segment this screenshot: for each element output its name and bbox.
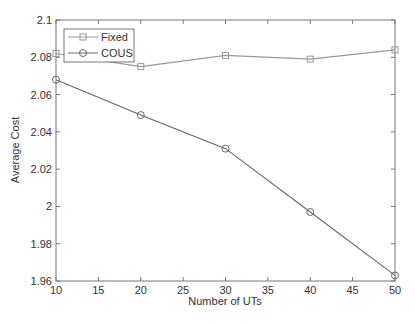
legend-label-cous: COUS	[101, 47, 133, 59]
y-tick-label: 2.04	[31, 126, 52, 138]
square-marker-icon	[223, 52, 229, 58]
series-line-cous	[56, 80, 395, 276]
y-tick-label: 1.96	[31, 275, 52, 287]
square-marker-icon	[138, 64, 144, 70]
x-tick-label: 50	[389, 284, 401, 296]
x-tick-label: 45	[347, 284, 359, 296]
x-tick-label: 40	[304, 284, 316, 296]
square-marker-icon	[307, 56, 313, 62]
x-tick-label: 20	[135, 284, 147, 296]
y-tick-label: 2.08	[31, 51, 52, 63]
y-tick-label: 2.02	[31, 163, 52, 175]
y-tick-label: 1.98	[31, 238, 52, 250]
y-tick-label: 2	[46, 200, 52, 212]
x-axis-label: Number of UTs	[188, 295, 262, 307]
line-chart: 101520253035404550 1.961.9822.022.042.06…	[0, 0, 415, 323]
x-tick-label: 35	[262, 284, 274, 296]
x-tick-label: 15	[92, 284, 104, 296]
square-marker-icon	[53, 51, 59, 57]
legend-label-fixed: Fixed	[101, 31, 128, 43]
data-series	[53, 47, 399, 279]
y-tick-labels: 1.961.9822.022.042.062.082.1	[31, 14, 52, 287]
square-marker-icon	[392, 47, 398, 53]
legend: Fixed COUS	[64, 29, 134, 62]
y-tick-label: 2.1	[37, 14, 52, 26]
y-axis-label: Average Cost	[9, 117, 21, 183]
y-tick-label: 2.06	[31, 89, 52, 101]
